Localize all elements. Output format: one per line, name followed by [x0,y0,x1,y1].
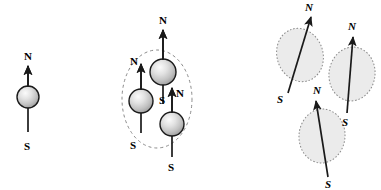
south-pole-label-m7: S [325,179,331,190]
magnet-sphere-m2 [150,59,176,85]
domain-ellipses-layer [270,22,379,165]
diagram-canvas: NSNSNSNSNSNSNS [0,0,381,190]
south-pole-label-m3: S [130,140,136,151]
south-pole-label-m2: S [159,95,165,106]
magnet-sphere-m4 [160,112,184,136]
north-pole-label-m1: N [24,51,32,62]
magnet-diagram-svg [0,0,381,190]
north-pole-label-m6: N [348,21,356,32]
north-pole-label-m7: N [313,85,321,96]
north-pole-label-m3: N [130,56,138,67]
south-pole-label-m5: S [277,94,283,105]
magnet-sphere-m3 [129,89,153,113]
north-pole-label-m5: N [305,2,313,13]
north-pole-label-m2: N [159,15,167,26]
south-pole-label-m4: S [168,162,174,173]
north-pole-label-m4: N [176,88,184,99]
south-pole-label-m6: S [342,117,348,128]
south-pole-label-m1: S [24,141,30,152]
magnet-sphere-m1 [17,86,39,108]
